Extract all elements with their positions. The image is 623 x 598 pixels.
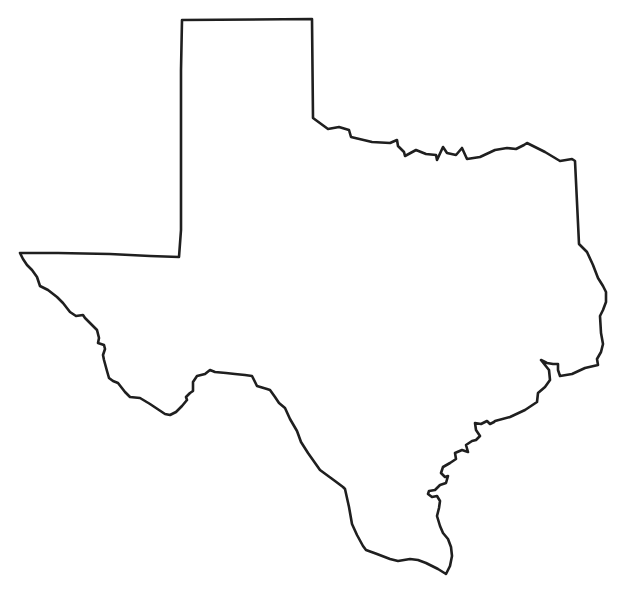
map-canvas <box>0 0 623 598</box>
texas-outline-map <box>0 0 623 598</box>
texas-state-outline <box>20 19 606 574</box>
